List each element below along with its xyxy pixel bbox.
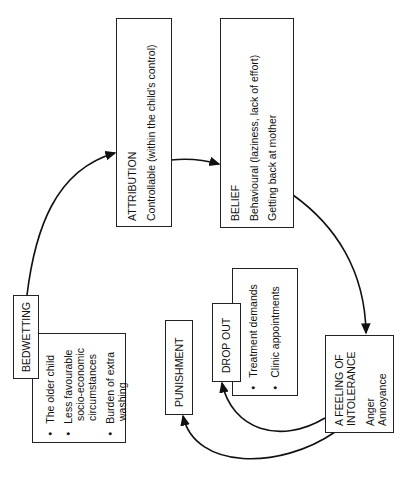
arrow-attribution-to-belief (171, 159, 219, 164)
arrow-belief-to-intolerance (293, 195, 366, 333)
intolerance-title: A FEELING OF (333, 352, 345, 427)
belief-text: BELIEF Behavioural (laziness, lack of ef… (229, 55, 284, 221)
attribution-text: ATTRIBUTION Controllable (within the chi… (126, 44, 157, 221)
dropout-items: Treatment demands Clinic appointments (247, 284, 287, 390)
intolerance-text: A FEELING OF INTOLERANCE Anger Annoyance (333, 352, 388, 427)
bedwetting-label: BEDWETTING (20, 302, 32, 372)
dropout-item: Clinic appointments (269, 284, 281, 390)
dropout-item: Treatment demands (247, 284, 259, 390)
bedwetting-item: Burden of extrawashing (104, 348, 128, 436)
bedwetting-item: Less favourablesocio-economiccircumstanc… (62, 348, 98, 436)
bedwetting-items: The older child Less favourablesocio-eco… (44, 348, 134, 436)
dropout-label: DROP OUT (220, 318, 232, 373)
attribution-title: ATTRIBUTION (126, 44, 138, 221)
arrow-intolerance-to-punishment (183, 416, 335, 459)
punishment-label: PUNISHMENT (173, 338, 185, 407)
bedwetting-item: The older child (44, 348, 56, 436)
arrow-bedwetting-to-attribution (27, 153, 115, 295)
belief-title: BELIEF (229, 55, 241, 221)
